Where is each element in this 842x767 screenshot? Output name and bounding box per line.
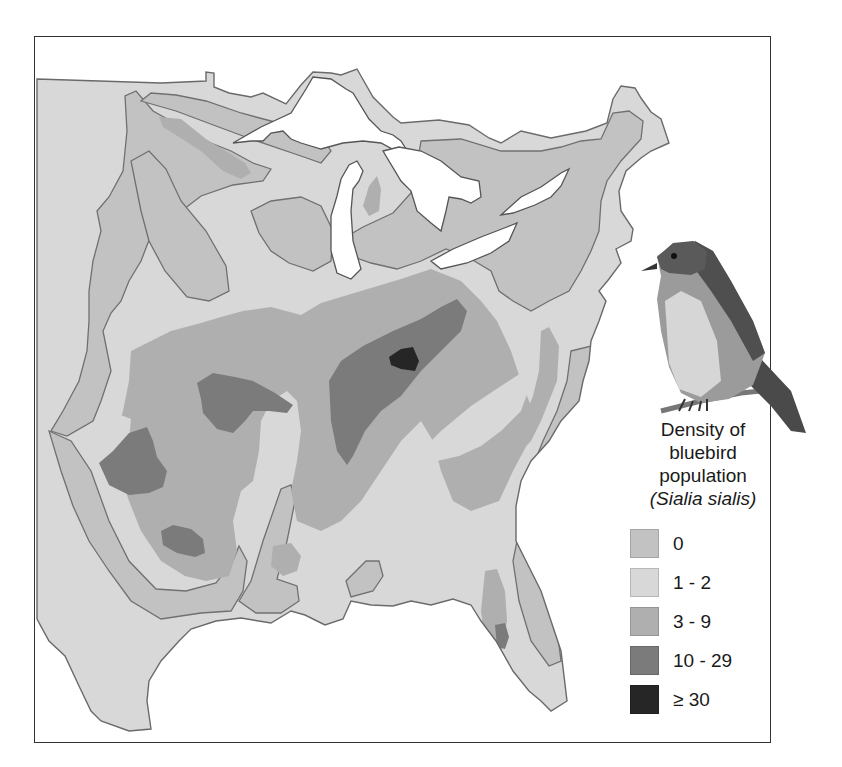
legend-item-0: 0 <box>630 524 818 563</box>
bluebird-illustration <box>641 241 806 433</box>
legend-swatch-3-9 <box>630 607 659 636</box>
legend-title-line-1: Density of <box>618 418 788 441</box>
scientific-name: (Sialia sialis) <box>618 487 788 510</box>
legend-label-3-9: 3 - 9 <box>673 611 711 633</box>
legend-swatch-10-29 <box>630 646 659 675</box>
legend-label-0: 0 <box>673 533 684 555</box>
bird-eye <box>671 253 677 259</box>
legend-title-line-2: bluebird <box>618 441 788 464</box>
legend-item-10-29: 10 - 29 <box>630 641 818 680</box>
legend-item-3-9: 3 - 9 <box>630 602 818 641</box>
legend: Density of bluebird population (Sialia s… <box>618 418 818 719</box>
legend-label-1-2: 1 - 2 <box>673 572 711 594</box>
legend-swatch-1-2 <box>630 568 659 597</box>
legend-item-30-plus: ≥ 30 <box>630 680 818 719</box>
legend-title: Density of bluebird population (Sialia s… <box>618 418 788 510</box>
legend-swatch-0 <box>630 529 659 558</box>
bird-head <box>657 241 707 275</box>
legend-label-10-29: 10 - 29 <box>673 650 732 672</box>
legend-label-30-plus: ≥ 30 <box>673 689 710 711</box>
legend-item-1-2: 1 - 2 <box>630 563 818 602</box>
bird-beak <box>641 263 657 271</box>
legend-items: 0 1 - 2 3 - 9 10 - 29 ≥ 30 <box>630 524 818 719</box>
legend-title-line-3: population <box>618 464 788 487</box>
legend-swatch-30-plus <box>630 685 659 714</box>
